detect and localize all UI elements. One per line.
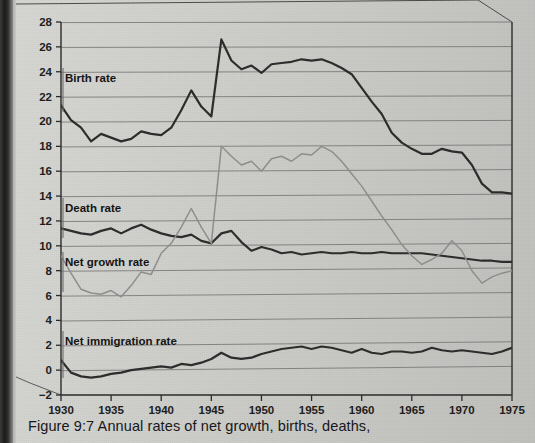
- y-tick-label: −2: [39, 389, 52, 401]
- x-tick-label: 1965: [399, 404, 425, 416]
- y-tick-label: 16: [39, 165, 52, 177]
- x-tick-label: 1960: [349, 404, 375, 416]
- x-tick-label: 1945: [199, 404, 225, 416]
- series-label-death-rate: Death rate: [65, 202, 121, 214]
- series-label-birth-rate: Birth rate: [65, 72, 116, 84]
- chart-svg: −20246810121416182022242628 193019351940…: [0, 0, 535, 443]
- y-tick-label: 22: [39, 91, 52, 103]
- series-label-net-growth-rate: Net growth rate: [65, 256, 149, 268]
- x-tick-label: 1940: [148, 404, 174, 416]
- y-tick-marks: [56, 22, 61, 395]
- y-tick-label: 0: [46, 364, 52, 376]
- x-tick-label: 1935: [98, 404, 124, 416]
- y-tick-label: 20: [39, 115, 52, 127]
- y-tick-label: 4: [46, 314, 53, 326]
- y-tick-label: 6: [46, 290, 52, 302]
- figure-caption: Figure 9:7 Annual rates of net growth, b…: [28, 418, 370, 434]
- book-page-edge: [13, 0, 16, 443]
- book-gutter-shadow: [0, 0, 13, 443]
- y-tick-label: 2: [46, 339, 52, 351]
- x-tick-label: 1970: [449, 404, 475, 416]
- y-axis-tick-labels: −20246810121416182022242628: [39, 16, 53, 401]
- x-tick-label: 1975: [499, 404, 525, 416]
- x-tick-label: 1950: [249, 404, 275, 416]
- y-tick-label: 10: [39, 240, 52, 252]
- figure-page: −20246810121416182022242628 193019351940…: [0, 0, 535, 443]
- y-tick-label: 18: [39, 140, 52, 152]
- y-tick-label: 8: [46, 265, 53, 277]
- x-axis-tick-labels: 1930193519401945195019551960196519701975: [48, 404, 525, 416]
- gridlines: [61, 22, 512, 371]
- x-tick-label: 1955: [299, 404, 325, 416]
- y-tick-label: 26: [39, 41, 52, 53]
- y-tick-label: 28: [39, 16, 52, 28]
- y-tick-label: 14: [39, 190, 52, 202]
- x-tick-marks: [61, 395, 512, 401]
- series-label-net-immigration-rate: Net immigration rate: [65, 335, 177, 347]
- x-tick-label: 1930: [48, 404, 74, 416]
- y-tick-label: 24: [39, 66, 52, 78]
- series-line-net-immigration-rate: [61, 347, 512, 378]
- y-tick-label: 12: [39, 215, 52, 227]
- data-series-group: [61, 39, 512, 377]
